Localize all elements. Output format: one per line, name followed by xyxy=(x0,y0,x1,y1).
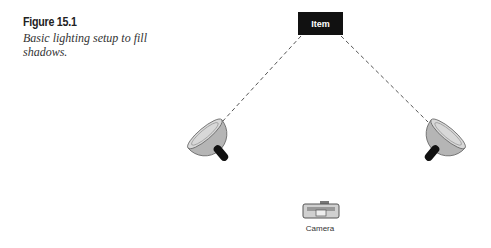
item-label: Item xyxy=(311,19,330,29)
lighting-diagram: Item Camera xyxy=(0,0,491,248)
camera-label: Camera xyxy=(306,224,335,233)
light-beam-left xyxy=(222,36,301,122)
item-box: Item xyxy=(298,12,343,35)
camera-icon: Camera xyxy=(303,201,339,233)
light-right-icon xyxy=(409,115,468,174)
light-left-icon xyxy=(184,115,243,174)
light-beam-right xyxy=(341,36,428,122)
